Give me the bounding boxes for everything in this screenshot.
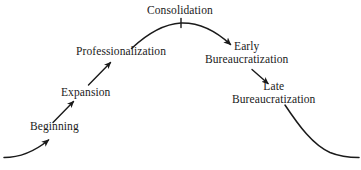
stage-label-professionalization: Professionalization <box>76 45 166 58</box>
stage-label-consolidation-line1: Consolidation <box>147 4 213 16</box>
stage-label-beginning-line1: Beginning <box>30 120 79 132</box>
organizational-lifecycle-diagram: Beginning Expansion Professionalization … <box>0 0 361 170</box>
stage-label-consolidation: Consolidation <box>147 4 213 17</box>
descending-tail-curve <box>285 105 359 158</box>
stage-label-early-bureaucratization: Early Bureaucratization <box>205 40 288 65</box>
stage-label-late-line1: Late <box>263 80 284 92</box>
stage-label-early-line1: Early <box>234 40 259 52</box>
stage-label-expansion: Expansion <box>61 86 110 99</box>
stage-label-early-line2: Bureaucratization <box>205 53 288 66</box>
rising-tail-curve <box>4 140 49 158</box>
stage-label-late-line2: Bureaucratization <box>232 93 315 106</box>
stage-label-late-bureaucratization: Late Bureaucratization <box>232 80 315 105</box>
stage-label-professionalization-line1: Professionalization <box>76 45 166 57</box>
arrow-expansion-to-professionalization <box>89 63 111 86</box>
stage-label-expansion-line1: Expansion <box>61 86 110 98</box>
stage-label-beginning: Beginning <box>30 120 79 133</box>
